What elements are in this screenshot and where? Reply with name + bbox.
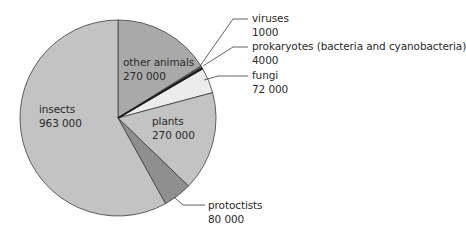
label-other-animals: other animals 270 000 xyxy=(123,55,194,83)
label-plants: plants 270 000 xyxy=(152,114,195,142)
label-prokaryotes-value: 4000 xyxy=(252,53,466,67)
leader-line-fungi xyxy=(204,76,248,80)
label-viruses: viruses 1000 xyxy=(252,11,289,39)
label-prokaryotes-name: prokaryotes (bacteria and cyanobacteria) xyxy=(252,39,466,53)
leader-line-viruses xyxy=(200,19,248,66)
label-other-animals-value: 270 000 xyxy=(123,69,194,83)
label-viruses-name: viruses xyxy=(252,11,289,25)
label-fungi-value: 72 000 xyxy=(252,82,288,96)
label-insects: insects 963 000 xyxy=(39,102,82,130)
label-other-animals-name: other animals xyxy=(123,55,194,69)
label-protoctists: protoctists 80 000 xyxy=(208,198,262,226)
leader-line-prokaryotes xyxy=(203,47,248,66)
label-insects-name: insects xyxy=(39,102,82,116)
leader-line-protoctists xyxy=(174,197,205,205)
label-plants-name: plants xyxy=(152,114,195,128)
label-protoctists-name: protoctists xyxy=(208,198,262,212)
label-fungi-name: fungi xyxy=(252,68,288,82)
label-prokaryotes: prokaryotes (bacteria and cyanobacteria)… xyxy=(252,39,466,67)
label-insects-value: 963 000 xyxy=(39,116,82,130)
label-plants-value: 270 000 xyxy=(152,128,195,142)
label-fungi: fungi 72 000 xyxy=(252,68,288,96)
label-viruses-value: 1000 xyxy=(252,25,289,39)
label-protoctists-value: 80 000 xyxy=(208,212,262,226)
